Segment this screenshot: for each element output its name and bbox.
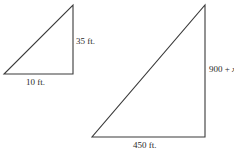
small-triangle (4, 5, 73, 74)
small-triangle-height-label: 35 ft. (76, 36, 95, 46)
similar-triangles-figure: 35 ft. 10 ft. 900 + x 450 ft. (0, 0, 234, 151)
height-label-variable: x (232, 64, 234, 74)
large-triangle (92, 5, 205, 137)
triangles-canvas (0, 0, 234, 151)
small-triangle-base-label: 10 ft. (26, 77, 45, 87)
large-triangle-base-label: 450 ft. (133, 140, 157, 150)
height-label-constant: 900 + (209, 64, 232, 74)
large-triangle-height-label: 900 + x (209, 64, 234, 74)
